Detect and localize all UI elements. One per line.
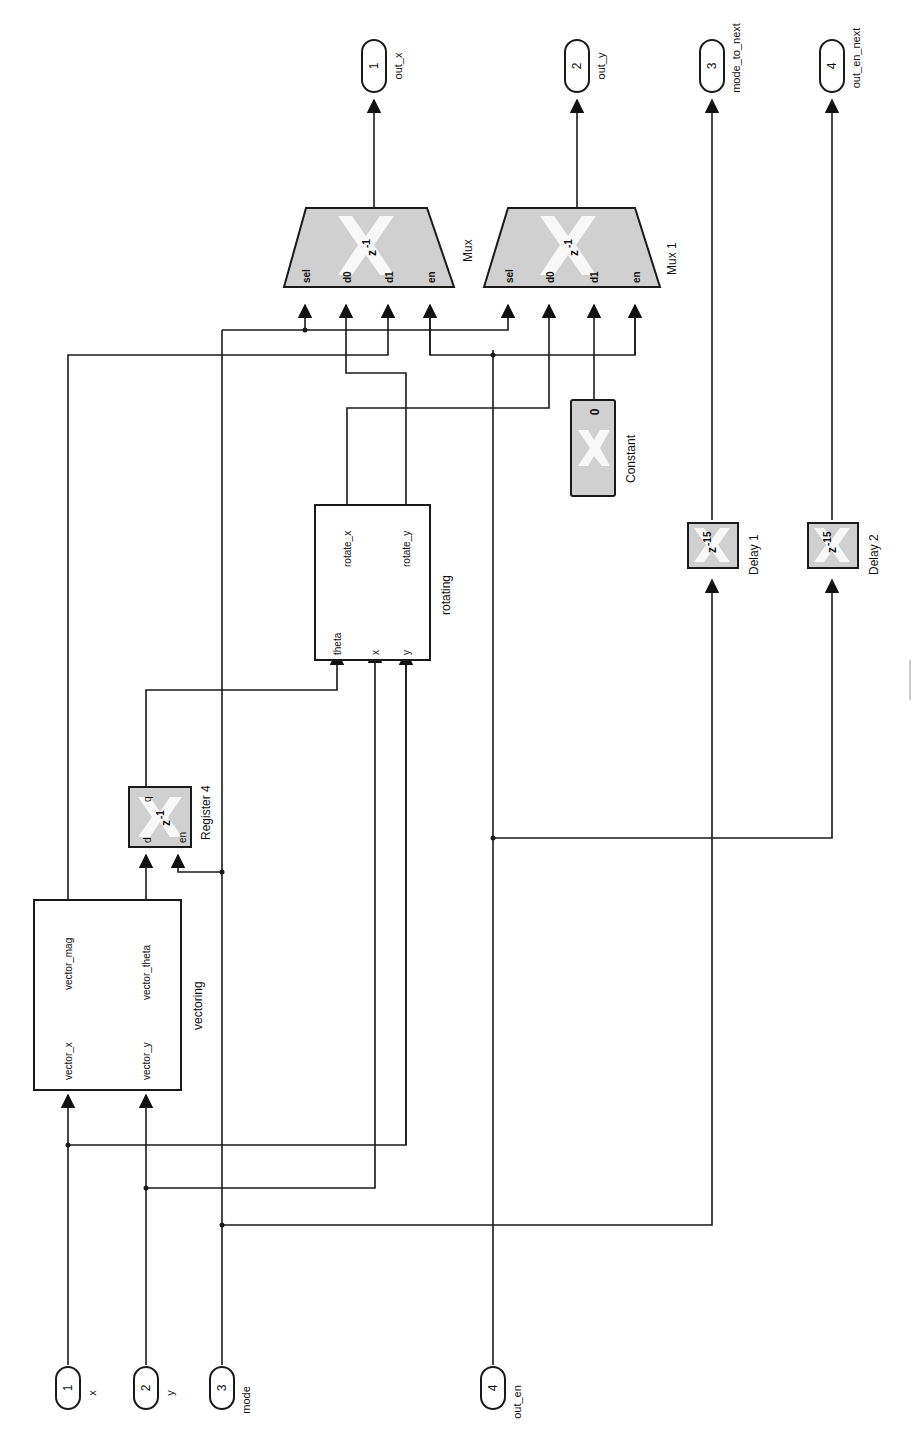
svg-text:-1: -1	[563, 239, 574, 248]
svg-text:z: z	[159, 820, 173, 826]
mux-port-en: en	[426, 271, 437, 283]
svg-text:-15: -15	[822, 531, 833, 546]
outport-out-y[interactable]: 2 out_y	[565, 40, 607, 92]
mux-1-port-d0: d0	[545, 271, 556, 283]
mux-1-port-en: en	[631, 271, 642, 283]
inport-x[interactable]: 1 x	[56, 1367, 98, 1409]
vectoring-block-name: vectoring	[191, 981, 205, 1030]
svg-text:-15: -15	[702, 531, 713, 546]
mux-1-port-sel: sel	[504, 269, 515, 283]
mux-1-block-name: Mux 1	[665, 242, 679, 275]
port-vector-y: vector_y	[141, 1042, 152, 1080]
inport-mode-number: 3	[215, 1384, 229, 1391]
delay-1-block-name: Delay 1	[747, 534, 761, 575]
svg-text:z: z	[365, 250, 379, 256]
inport-out-en-number: 4	[486, 1384, 500, 1391]
outport-out-y-label: out_y	[595, 52, 607, 79]
junction-dots	[66, 328, 496, 1228]
inport-out-en-label: out_en	[511, 1385, 523, 1419]
mux-1-block[interactable]: sel d0 d1 en z -1 Mux 1	[484, 208, 679, 287]
constant-block[interactable]: 0 Constant	[571, 400, 638, 496]
outport-out-x-label: out_x	[392, 52, 404, 79]
delay-2-block[interactable]: z -15 Delay 2	[808, 523, 881, 575]
outport-out-y-number: 2	[570, 62, 584, 69]
outport-mode-to-next[interactable]: 3 mode_to_next	[700, 23, 742, 93]
register-4-block[interactable]: d en q z -1 Register 4	[129, 785, 213, 847]
port-en: en	[177, 832, 188, 843]
svg-text:z: z	[705, 547, 719, 553]
port-d: d	[142, 837, 153, 843]
outport-out-en-next-label: out_en_next	[850, 28, 862, 89]
svg-text:z: z	[825, 547, 839, 553]
register-4-block-name: Register 4	[199, 785, 213, 840]
outport-mode-to-next-label: mode_to_next	[730, 23, 742, 93]
outport-mode-to-next-number: 3	[705, 62, 719, 69]
port-x: x	[370, 650, 381, 655]
port-vector-theta: vector_theta	[141, 945, 152, 1000]
vectoring-block[interactable]: vector_x vector_y vector_mag vector_thet…	[34, 900, 205, 1090]
port-theta: theta	[332, 632, 343, 655]
inport-mode[interactable]: 3 mode	[210, 1367, 252, 1414]
inport-mode-label: mode	[240, 1386, 252, 1414]
port-y: y	[401, 650, 412, 655]
mux-port-d0: d0	[342, 271, 353, 283]
inport-y-label: y	[164, 1390, 176, 1396]
outport-out-en-next[interactable]: 4 out_en_next	[820, 28, 862, 92]
svg-text:-1: -1	[361, 239, 372, 248]
outport-out-x-number: 1	[367, 62, 381, 69]
svg-text:z: z	[567, 250, 581, 256]
port-vector-mag: vector_mag	[63, 938, 74, 990]
inport-y-number: 2	[139, 1384, 153, 1391]
inport-out-en[interactable]: 4 out_en	[481, 1367, 523, 1419]
wires	[68, 100, 832, 1365]
constant-block-name: Constant	[624, 434, 638, 483]
block-diagram-canvas: 1 x 2 y 3 mode 4 out_en 1 out_x 2 out_y …	[0, 0, 913, 1448]
outport-out-x[interactable]: 1 out_x	[362, 40, 404, 92]
mux-block[interactable]: sel d0 d1 en z -1 Mux	[284, 208, 475, 287]
delay-2-block-name: Delay 2	[867, 534, 881, 575]
inport-x-number: 1	[61, 1384, 75, 1391]
inport-x-label: x	[86, 1390, 98, 1396]
rotating-block-name: rotating	[439, 575, 453, 615]
port-q: q	[142, 796, 153, 802]
inport-y[interactable]: 2 y	[134, 1367, 176, 1409]
port-vector-x: vector_x	[63, 1042, 74, 1080]
constant-value: 0	[588, 408, 602, 415]
port-rotate-y: rotate_y	[401, 531, 412, 567]
mux-port-d1: d1	[384, 271, 395, 283]
mux-block-name: Mux	[461, 239, 475, 262]
mux-port-sel: sel	[301, 269, 312, 283]
rotating-block[interactable]: theta x y rotate_x rotate_y rotating	[315, 505, 453, 660]
outport-out-en-next-number: 4	[825, 62, 839, 69]
mux-1-port-d1: d1	[589, 271, 600, 283]
delay-1-block[interactable]: z -15 Delay 1	[688, 523, 761, 575]
svg-text:-1: -1	[155, 810, 166, 819]
port-rotate-x: rotate_x	[342, 531, 353, 567]
